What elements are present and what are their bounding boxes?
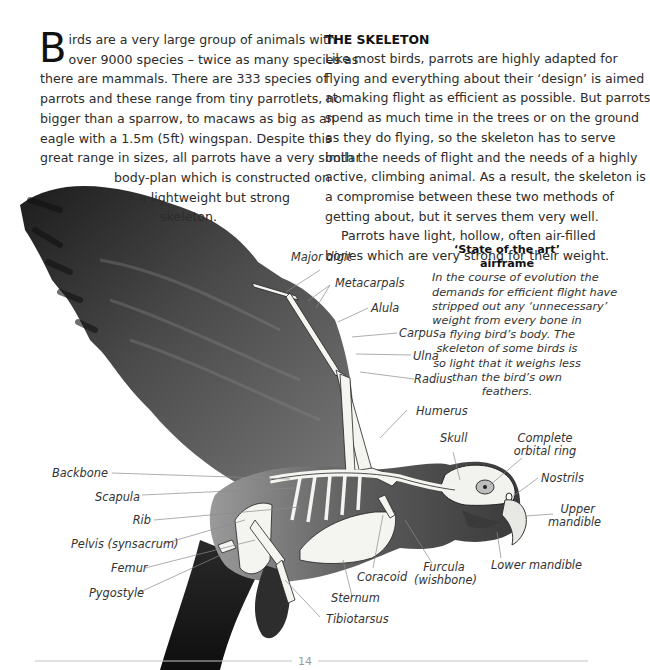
sidebar-line: than the bird’s own [432, 371, 582, 385]
airframe-sidebar: ‘State of the art’ airframe In the cours… [432, 243, 582, 399]
body-line: flying and everything about their ‘desig… [325, 69, 597, 89]
label-skull: Skull [440, 432, 467, 445]
label-carpus: Carpus [399, 327, 439, 340]
label-metacarpals: Metacarpals [335, 277, 405, 290]
intro-line: bigger than a sparrow, to macaws as big … [40, 109, 302, 129]
sidebar-line: weight from every bone in [432, 314, 582, 328]
intro-line: a lightweight but strong [40, 188, 302, 208]
label-major-digit: Major digit [291, 251, 352, 264]
label-pygostyle: Pygostyle [89, 587, 144, 600]
sidebar-line: skeleton of some birds is [432, 342, 582, 356]
label-ulna: Ulna [413, 350, 439, 363]
intro-line: parrots and these range from tiny parrot… [40, 89, 302, 109]
sidebar-title: ‘State of the art’ airframe [432, 243, 582, 271]
body-line: a compromise between these two methods o… [325, 187, 597, 207]
label-orbital-ring-line2: orbital ring [514, 444, 577, 458]
intro-line: great range in sizes, all parrots have a… [40, 148, 302, 168]
body-line: spend as much time in the trees or on th… [325, 108, 597, 128]
sidebar-line: demands for efficient flight have [432, 286, 582, 300]
intro-line: there are mammals. There are 333 species… [40, 69, 302, 89]
label-nostrils: Nostrils [541, 472, 584, 485]
label-rib: Rib [100, 514, 151, 527]
intro-line: body-plan which is constructed on [40, 168, 302, 188]
sidebar-line: feathers. [432, 385, 582, 399]
body-line: as they do flying, so the skeleton has t… [325, 128, 597, 148]
sidebar-line: a flying bird’s body. The [432, 328, 582, 342]
label-femur: Femur [111, 562, 148, 575]
label-furcula-line1: Furcula [423, 560, 465, 574]
intro-line: eagle with a 1.5m (5ft) wingspan. Despit… [40, 129, 302, 149]
sidebar-line: so light that it weighs less [432, 357, 582, 371]
label-orbital-ring-line1: Complete [518, 431, 573, 445]
body-line: active, climbing animal. As a result, th… [325, 167, 597, 187]
label-furcula: Furcula (wishbone) [414, 561, 474, 587]
intro-line: irds are a very large group of animals w… [40, 30, 302, 50]
body-line: getting about, but it serves them very w… [325, 207, 597, 227]
skeleton-section: THE SKELETON Like most birds, parrots ar… [325, 30, 597, 266]
label-backbone: Backbone [40, 467, 108, 480]
label-upper-mandible: Upper mandible [548, 503, 595, 529]
body-line: at making flight as efficient as possibl… [325, 88, 597, 108]
label-upper-mandible-line2: mandible [548, 515, 601, 529]
sidebar-line: stripped out any ‘unnecessary’ [432, 300, 582, 314]
label-lower-mandible: Lower mandible [491, 559, 582, 572]
label-radius: Radius [414, 373, 452, 386]
label-alula: Alula [371, 302, 399, 315]
sidebar-line: In the course of evolution the [432, 271, 582, 285]
wing-shape [20, 186, 354, 490]
drop-cap: B [39, 32, 66, 64]
body-line: both the needs of flight and the needs o… [325, 148, 597, 168]
label-scapula: Scapula [60, 491, 140, 504]
label-upper-mandible-line1: Upper [561, 502, 596, 516]
body-line: Like most birds, parrots are highly adap… [325, 49, 597, 69]
intro-line: over 9000 species – twice as many specie… [40, 50, 302, 70]
label-furcula-line2: (wishbone) [414, 573, 477, 587]
intro-paragraph: B irds are a very large group of animals… [40, 30, 302, 227]
label-pelvis: Pelvis (synsacrum) [71, 538, 178, 551]
page-number: 14 [298, 656, 312, 668]
label-tibiotarsus: Tibiotarsus [326, 613, 389, 626]
label-sternum: Sternum [331, 592, 380, 605]
section-heading: THE SKELETON [325, 30, 597, 49]
label-coracoid: Coracoid [357, 571, 407, 584]
intro-line: skeleton. [40, 207, 302, 227]
label-orbital-ring: Complete orbital ring [512, 432, 578, 458]
label-humerus: Humerus [416, 405, 468, 418]
